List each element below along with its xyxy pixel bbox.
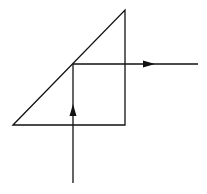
background <box>0 0 207 194</box>
prism-diagram <box>0 0 207 194</box>
